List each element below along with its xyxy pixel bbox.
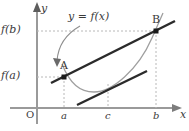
tangent-line	[77, 71, 147, 105]
y-tick-label-fb: f(b)	[1, 24, 21, 35]
y-axis	[33, 2, 41, 124]
point-b-label: B	[152, 14, 160, 25]
point-a-label: A	[60, 60, 68, 71]
point-b-marker	[154, 29, 159, 34]
x-tick-label-b: b	[153, 111, 159, 121]
mvt-figure: f(b) f(a) y = f(x) A B O a c b x y	[0, 0, 189, 131]
x-tick-label-a: a	[61, 111, 67, 121]
function-annotation-label: y = f(x)	[68, 11, 109, 22]
point-a-marker	[62, 75, 67, 80]
x-axis-label: x	[180, 109, 186, 120]
x-tick-label-c: c	[105, 111, 111, 121]
y-axis-label: y	[41, 3, 47, 14]
y-tick-label-fa: f(a)	[1, 70, 20, 81]
origin-label: O	[26, 110, 34, 120]
